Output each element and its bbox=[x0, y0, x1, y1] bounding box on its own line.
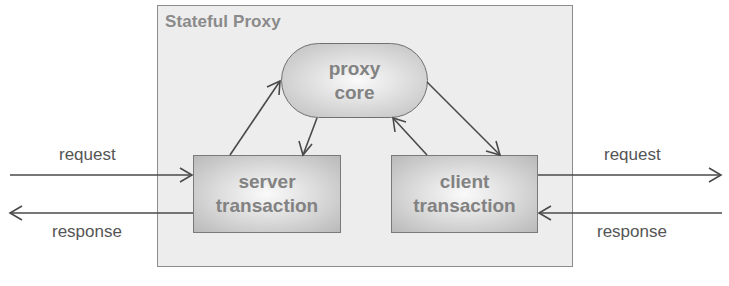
left-request-label: request bbox=[59, 145, 116, 165]
server-transaction-label-line2: transaction bbox=[216, 194, 318, 218]
proxy-core-label-line2: core bbox=[334, 81, 374, 105]
proxy-core-label-line1: proxy bbox=[329, 57, 381, 81]
server-transaction-node: server transaction bbox=[193, 155, 341, 233]
client-transaction-label-line1: client bbox=[440, 170, 490, 194]
server-transaction-label-line1: server bbox=[238, 170, 295, 194]
client-transaction-label-line2: transaction bbox=[413, 194, 515, 218]
container-title: Stateful Proxy bbox=[165, 12, 281, 32]
client-transaction-node: client transaction bbox=[391, 155, 538, 233]
right-request-label: request bbox=[604, 145, 661, 165]
right-response-label: response bbox=[597, 222, 667, 242]
left-response-label: response bbox=[52, 222, 122, 242]
proxy-core-node: proxy core bbox=[281, 43, 428, 118]
